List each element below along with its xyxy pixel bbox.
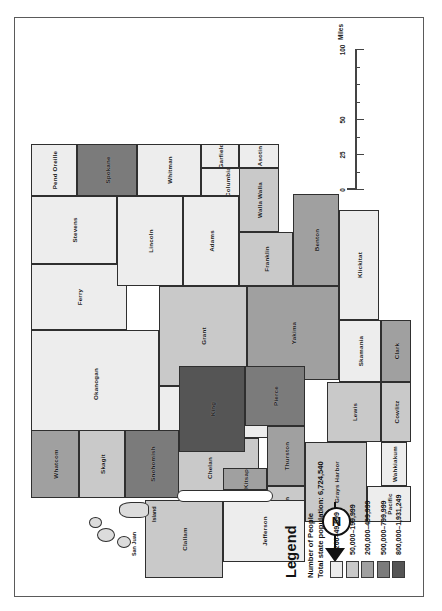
county-adams[interactable]: Adams: [183, 196, 239, 286]
island-label-island: Island: [151, 506, 157, 522]
county-garfield[interactable]: Garfield: [201, 144, 239, 168]
county-island[interactable]: [119, 502, 149, 518]
legend-swatch-1: [330, 561, 343, 578]
legend: Legend Number of People Total state popu…: [283, 348, 415, 578]
scale-tick-minor-2: [355, 137, 360, 138]
scale-tick-minor-5: [355, 67, 360, 68]
scale-tick-50: [355, 119, 364, 120]
scale-tick-minor-4: [355, 84, 360, 85]
county-label: Ferry: [76, 289, 83, 305]
county-label: Asotin: [256, 146, 263, 166]
county-label: Whitman: [166, 156, 173, 184]
map-page: Pend Oreille Stevens Ferry Okanogan Spok…: [0, 0, 442, 611]
county-pend-oreille[interactable]: Pend Oreille: [31, 144, 77, 196]
county-whatcom[interactable]: Whatcom: [31, 430, 79, 498]
map-frame: Pend Oreille Stevens Ferry Okanogan Spok…: [14, 17, 424, 597]
legend-label-3: 200,000–499,999: [364, 501, 371, 556]
county-label: Garfield: [217, 144, 224, 168]
county-label: Lincoln: [147, 229, 154, 252]
county-label: Walla Walla: [256, 182, 263, 218]
scale-label-0: 0: [339, 188, 346, 192]
county-asotin[interactable]: Asotin: [239, 144, 279, 168]
legend-item[interactable]: 500,000–799,999: [377, 348, 390, 578]
county-label: King: [209, 402, 216, 417]
county-label: Franklin: [263, 246, 270, 272]
county-label: Klickitat: [356, 252, 363, 278]
county-klickitat[interactable]: Klickitat: [339, 210, 379, 320]
county-san-juan-a[interactable]: [97, 528, 115, 542]
county-king[interactable]: King: [179, 366, 245, 452]
county-spokane[interactable]: Spokane: [77, 144, 137, 196]
scale-bar: 0 25 50 100 Miles: [333, 26, 379, 196]
county-label: Kitsap: [242, 469, 249, 489]
county-okanogan[interactable]: Okanogan: [31, 330, 159, 438]
county-label: Chelan: [206, 457, 213, 479]
county-label: Okanogan: [92, 368, 99, 400]
county-label: Columbia: [224, 168, 231, 196]
county-label: Benton: [313, 229, 320, 252]
county-label: Yakima: [290, 322, 297, 345]
scale-units-label: Miles: [337, 24, 344, 40]
county-label: Skagit: [99, 454, 106, 474]
county-skagit[interactable]: Skagit: [79, 430, 125, 498]
county-label: Whatcom: [52, 449, 59, 478]
legend-item[interactable]: 50,000–199,999: [346, 348, 359, 578]
scale-bar-axis: [355, 50, 357, 190]
county-label: Spokane: [104, 156, 111, 183]
county-label: Adams: [208, 230, 215, 252]
scale-tick-0: [355, 189, 364, 190]
legend-swatch-2: [346, 561, 359, 578]
legend-label-1: 2,266–49,999: [333, 512, 340, 555]
county-snohomish[interactable]: Snohomish: [125, 430, 179, 498]
puget-sound-water: [177, 490, 273, 502]
county-san-juan-c[interactable]: [117, 536, 131, 548]
county-whitman[interactable]: Whitman: [137, 144, 201, 196]
county-benton[interactable]: Benton: [293, 194, 339, 286]
county-kitsap[interactable]: Kitsap: [223, 468, 267, 490]
county-label: Clallam: [181, 527, 188, 550]
scale-tick-100: [355, 49, 364, 50]
legend-swatch-4: [377, 561, 390, 578]
scale-label-100: 100: [339, 45, 346, 56]
county-label: Pierce: [272, 386, 279, 406]
legend-label-5: 800,000–1,931,249: [395, 495, 402, 555]
county-label: Pend Oreille: [51, 151, 58, 190]
county-label: Snohomish: [149, 446, 156, 482]
county-lincoln[interactable]: Lincoln: [117, 196, 183, 286]
legend-item[interactable]: 800,000–1,931,249: [392, 348, 405, 578]
legend-swatch-3: [361, 561, 374, 578]
county-stevens[interactable]: Stevens: [31, 196, 117, 264]
legend-subtitle: Number of People: [306, 348, 315, 578]
scale-label-50: 50: [339, 116, 346, 123]
scale-tick-minor-3: [355, 102, 360, 103]
county-franklin[interactable]: Franklin: [239, 232, 293, 286]
legend-swatch-5: [392, 561, 405, 578]
county-san-juan-b[interactable]: [89, 517, 102, 528]
county-label: Stevens: [71, 217, 78, 242]
island-label-san-juan: San Juan: [131, 532, 137, 556]
county-label: Grant: [200, 327, 207, 345]
scale-tick-minor-1: [355, 172, 360, 173]
map-sheet: Pend Oreille Stevens Ferry Okanogan Spok…: [6, 5, 436, 605]
legend-label-2: 50,000–199,999: [349, 504, 356, 555]
county-ferry[interactable]: Ferry: [31, 264, 127, 330]
county-walla-walla[interactable]: Walla Walla: [239, 168, 279, 232]
legend-heading: Legend: [283, 348, 299, 578]
county-label: Jefferson: [261, 516, 268, 546]
scale-tick-25: [355, 154, 364, 155]
legend-item[interactable]: 2,266–49,999: [330, 348, 343, 578]
scale-label-25: 25: [339, 151, 346, 158]
legend-label-4: 500,000–799,999: [380, 501, 387, 556]
legend-item[interactable]: 200,000–499,999: [361, 348, 374, 578]
legend-total-population: Total state population: 6,724,540: [316, 348, 325, 578]
